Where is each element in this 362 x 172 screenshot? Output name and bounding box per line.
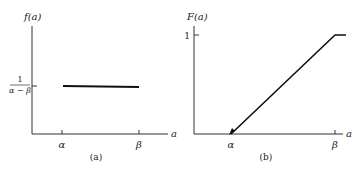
panel-b-xlabel: a [346,128,352,139]
panel-a-ylabel: f(a) [23,11,42,22]
panel-b-ylabel: F(a) [186,11,208,22]
panel-b-cdf-line [231,35,346,134]
panel-a-xlabel: a [171,128,177,139]
panel-a-caption: (a) [90,152,102,162]
panel-a-density-line [63,86,139,87]
uniform-distribution-diagram: f(a) a 1 α − β α β (a) F(a) a 1 α β (b) [0,0,362,172]
panel-b-alpha-label: α [228,139,235,150]
panel-b-caption: (b) [260,152,273,162]
panel-b-beta-label: β [331,139,338,150]
panel-a-y-tick-denominator: α − β [9,86,31,95]
panel-a-y-tick-numerator: 1 [17,75,22,84]
panel-b-y-tick-label: 1 [184,31,190,41]
panel-a: f(a) a 1 α − β α β (a) [9,11,177,162]
panel-b: F(a) a 1 α β (b) [184,11,352,162]
panel-a-alpha-label: α [59,139,66,150]
panel-a-beta-label: β [135,139,142,150]
